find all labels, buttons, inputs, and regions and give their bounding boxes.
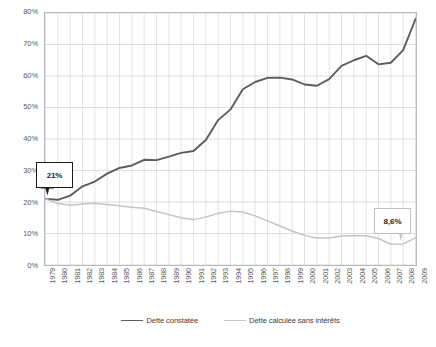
y-axis-tick-label: 10% [23,230,38,238]
legend-entry[interactable]: Dette calculée sans intérêts [224,316,339,325]
x-axis-tick-label: 2007 [395,268,404,284]
y-axis-tick-label: 60% [23,72,38,80]
y-axis: 0%10%20%30%40%50%60%70%80% [0,12,41,266]
x-axis-tick-label: 1992 [209,268,218,284]
legend-entry[interactable]: Dette constatée [121,316,198,325]
callout-tail-icon [395,233,407,241]
y-axis-tick-label: 40% [23,135,38,143]
legend-label: Dette constatée [146,316,198,325]
x-axis-tick-label: 2009 [420,268,429,284]
y-axis-tick-label: 80% [23,8,38,16]
x-axis-tick-label: 1990 [184,268,193,284]
annotation-label-21: 21% [47,171,63,180]
x-axis-tick-label: 2003 [345,268,354,284]
x-axis-tick-label: 2000 [308,268,317,284]
annotation-label-86: 8,6% [384,217,402,226]
x-axis-tick-label: 2002 [333,268,342,284]
x-axis-tick-label: 1985 [122,268,131,284]
chart-title [0,0,436,1]
legend-line-swatch [121,320,143,321]
x-axis-tick-label: 1991 [197,268,206,284]
x-axis-tick-label: 1994 [234,268,243,284]
x-axis-tick-label: 1995 [246,268,255,284]
x-axis-tick-label: 1997 [271,268,280,284]
y-axis-tick-label: 20% [23,199,38,207]
x-axis-tick-label: 1993 [221,268,230,284]
x-axis-tick-label: 1986 [135,268,144,284]
x-axis-tick-label: 2008 [407,268,416,284]
plot-area [44,12,417,266]
legend-line-swatch [224,320,246,321]
x-axis-tick-label: 1996 [259,268,268,284]
debt-ratio-line-chart: 0%10%20%30%40%50%60%70%80% 21% 8,6% 1979… [0,0,436,347]
chart-legend: Dette constatéeDette calculée sans intér… [44,312,417,328]
x-axis-tick-label: 1979 [48,268,57,284]
x-axis-tick-label: 1998 [283,268,292,284]
x-axis-tick-label: 2001 [321,268,330,284]
x-axis-tick-label: 1982 [85,268,94,284]
x-axis-tick-label: 1980 [60,268,69,284]
legend-label: Dette calculée sans intérêts [249,316,339,325]
x-axis-tick-label: 1981 [73,268,82,284]
x-axis-tick-label: 2006 [383,268,392,284]
x-axis-tick-label: 1987 [147,268,156,284]
x-axis-tick-label: 1984 [110,268,119,284]
annotation-callout-end: 8,6% [374,208,411,234]
x-axis-tick-label: 2004 [358,268,367,284]
series-lines [45,13,416,265]
x-axis-tick-label: 2005 [370,268,379,284]
y-axis-tick-label: 70% [23,40,38,48]
y-axis-tick-label: 50% [23,103,38,111]
callout-tail-icon [41,187,54,196]
x-axis: 1979198019811982198319841985198619871988… [44,268,417,302]
y-axis-tick-label: 0% [27,262,38,270]
x-axis-tick-label: 1999 [296,268,305,284]
x-axis-tick-label: 1989 [172,268,181,284]
x-axis-tick-label: 1983 [97,268,106,284]
annotation-callout-start: 21% [36,162,73,188]
x-axis-tick-label: 1988 [159,268,168,284]
